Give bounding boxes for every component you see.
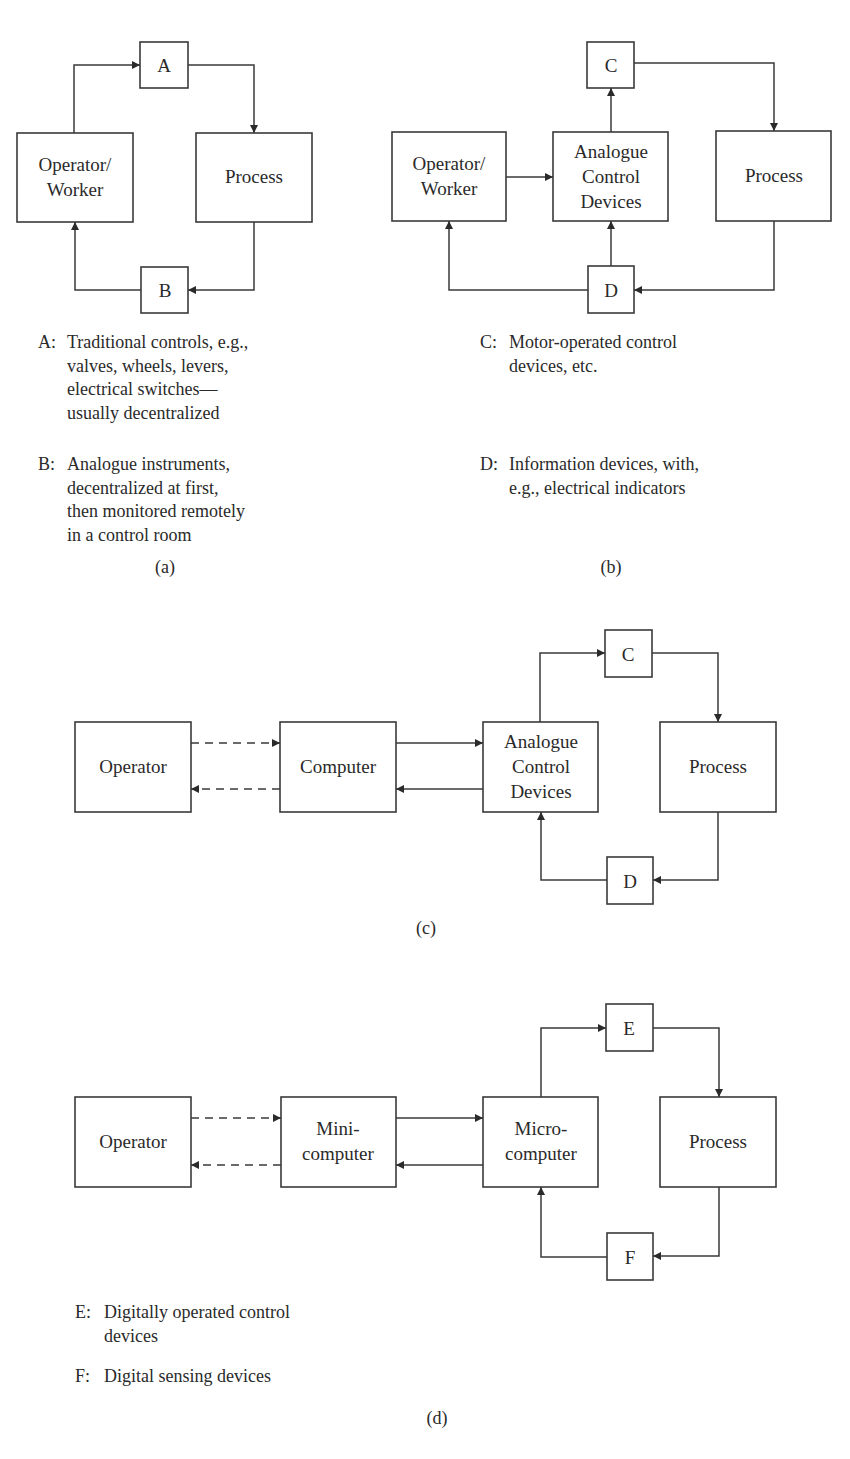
legend-key: C: bbox=[480, 331, 509, 378]
control-box-a-label: A bbox=[157, 55, 171, 76]
arrow-operator-to-a bbox=[74, 65, 140, 133]
operator-label-d: Operator bbox=[99, 1131, 167, 1152]
legend-key: A: bbox=[38, 331, 67, 425]
legend-item-b: B: Analogue instruments, decentralized a… bbox=[38, 453, 378, 547]
arrow-analogue-to-c bbox=[540, 653, 605, 722]
analogue-label-line2: Control bbox=[582, 166, 640, 187]
legend-key: E: bbox=[75, 1301, 104, 1348]
legend-key: B: bbox=[38, 453, 67, 547]
operator-label-line2: Worker bbox=[421, 178, 478, 199]
control-evolution-diagram: A Operator/ Worker Process B C Operator/… bbox=[0, 0, 850, 1459]
computer-label-c: Computer bbox=[300, 756, 377, 777]
arrow-d-to-operator bbox=[449, 221, 588, 290]
microcomputer-label-line2: computer bbox=[505, 1143, 577, 1164]
control-box-c-label: C bbox=[605, 55, 618, 76]
arrow-a-to-process bbox=[188, 65, 254, 133]
legend-text: Digitally operated control devices bbox=[104, 1301, 290, 1348]
legend-key: D: bbox=[480, 453, 509, 500]
info-box-d-label: D bbox=[604, 280, 618, 301]
info-box-d2-label: D bbox=[623, 871, 637, 892]
analogue-label-line3: Devices bbox=[510, 781, 571, 802]
legend-key: F: bbox=[75, 1365, 104, 1389]
operator-label-line1: Operator/ bbox=[413, 153, 487, 174]
legend-text: Information devices, with, e.g., electri… bbox=[509, 453, 699, 500]
process-label-a: Process bbox=[225, 166, 283, 187]
info-box-b-label: B bbox=[159, 280, 172, 301]
info-box-f-label: F bbox=[625, 1247, 636, 1268]
panel-d: Operator Mini- computer Micro- computer … bbox=[75, 1004, 776, 1280]
caption-c: (c) bbox=[416, 918, 436, 939]
analogue-label-line3: Devices bbox=[580, 191, 641, 212]
legend-item-e: E: Digitally operated control devices bbox=[75, 1301, 415, 1348]
process-label-d: Process bbox=[689, 1131, 747, 1152]
legend-d: E: Digitally operated control devices F:… bbox=[75, 1301, 415, 1389]
legend-text: Analogue instruments, decentralized at f… bbox=[67, 453, 245, 547]
caption-b: (b) bbox=[601, 557, 622, 578]
operator-label-line1: Operator/ bbox=[39, 154, 113, 175]
legend-item-c: C: Motor-operated control devices, etc. bbox=[480, 331, 820, 378]
operator-worker-box-a bbox=[17, 133, 133, 222]
process-label-b: Process bbox=[745, 165, 803, 186]
legend-item-a: A: Traditional controls, e.g., valves, w… bbox=[38, 331, 378, 425]
analogue-label-line1: Analogue bbox=[574, 141, 648, 162]
microcomputer-box bbox=[483, 1097, 598, 1187]
minicomputer-label-line2: computer bbox=[302, 1143, 374, 1164]
legend-item-f: F: Digital sensing devices bbox=[75, 1365, 415, 1389]
process-label-c: Process bbox=[689, 756, 747, 777]
panel-b: C Operator/ Worker Analogue Control Devi… bbox=[392, 42, 831, 313]
control-box-e-label: E bbox=[623, 1018, 635, 1039]
panel-a: A Operator/ Worker Process B bbox=[17, 42, 312, 313]
legend-b: C: Motor-operated control devices, etc. … bbox=[480, 331, 820, 500]
arrow-c-to-process bbox=[634, 63, 774, 131]
arrow-e-to-process bbox=[653, 1028, 719, 1097]
legend-text: Motor-operated control devices, etc. bbox=[509, 331, 677, 378]
arrow-process-to-f bbox=[653, 1187, 719, 1256]
legend-a: A: Traditional controls, e.g., valves, w… bbox=[38, 331, 378, 547]
arrow-process-to-b bbox=[188, 222, 254, 290]
arrow-process-to-d bbox=[653, 812, 718, 880]
operator-label-c: Operator bbox=[99, 756, 167, 777]
microcomputer-label-line1: Micro- bbox=[515, 1118, 568, 1139]
minicomputer-label-line1: Mini- bbox=[316, 1118, 359, 1139]
arrow-process-to-d bbox=[634, 221, 774, 290]
caption-a: (a) bbox=[155, 557, 175, 578]
legend-item-d: D: Information devices, with, e.g., elec… bbox=[480, 453, 820, 500]
panel-c: Operator Computer Analogue Control Devic… bbox=[75, 630, 776, 904]
analogue-label-line2: Control bbox=[512, 756, 570, 777]
arrow-f-to-microcomputer bbox=[541, 1187, 607, 1257]
arrow-d-to-analogue bbox=[541, 812, 607, 880]
arrow-b-to-operator bbox=[75, 222, 141, 290]
legend-text: Digital sensing devices bbox=[104, 1365, 271, 1389]
analogue-label-line1: Analogue bbox=[504, 731, 578, 752]
caption-d: (d) bbox=[427, 1408, 448, 1429]
arrow-c-to-process bbox=[652, 653, 718, 722]
control-box-c2-label: C bbox=[622, 644, 635, 665]
legend-text: Traditional controls, e.g., valves, whee… bbox=[67, 331, 248, 425]
arrow-microcomputer-to-e bbox=[541, 1028, 606, 1097]
minicomputer-box bbox=[281, 1097, 396, 1187]
operator-label-line2: Worker bbox=[47, 179, 104, 200]
operator-worker-box-b bbox=[392, 132, 506, 221]
